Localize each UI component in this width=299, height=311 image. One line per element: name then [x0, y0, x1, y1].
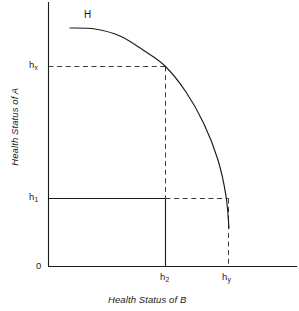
x-tick-label-hy: hy	[222, 272, 231, 282]
y-tick-label-h1-base: h	[29, 191, 34, 202]
y-tick-label-hx-sub: x	[35, 64, 38, 71]
x-tick-label-h2-base: h	[160, 271, 165, 282]
y-tick-label-hx-base: h	[29, 59, 34, 70]
x-tick-label-hy-base: h	[222, 271, 227, 282]
x-axis-title: Health Status of B	[108, 295, 186, 305]
y-tick-label-hx: hx	[29, 60, 38, 70]
x-tick-label-h2: h2	[160, 272, 169, 282]
health-frontier-figure: H 0 hx h1 h2 hy Health Status of A Healt…	[0, 0, 299, 311]
x-tick-label-h2-sub: 2	[166, 276, 170, 283]
y-tick-label-h1-sub: 1	[35, 196, 39, 203]
curve-label-h: H	[84, 10, 91, 20]
axis-origin-label: 0	[36, 261, 41, 271]
y-axis-title: Health Status of A	[10, 72, 20, 182]
y-tick-label-h1: h1	[29, 192, 38, 202]
plot-area	[0, 0, 299, 311]
x-tick-label-hy-sub: y	[228, 276, 231, 283]
